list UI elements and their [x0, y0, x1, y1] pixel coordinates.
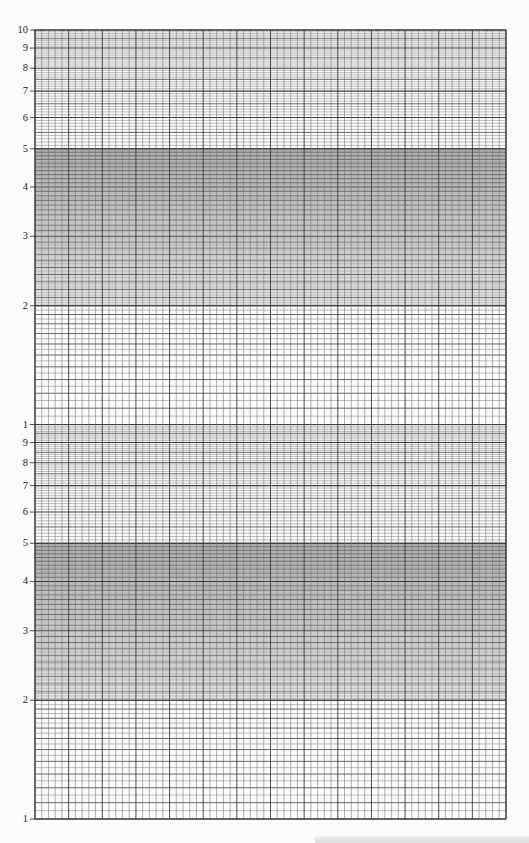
y-tick-label: 2	[0, 695, 28, 706]
y-tick-label: 2	[0, 300, 28, 311]
y-tick-label: 1	[0, 814, 28, 825]
y-tick-label: 4	[0, 576, 28, 587]
y-tick-label: 7	[0, 480, 28, 491]
y-tick-label: 6	[0, 507, 28, 518]
page-edge-shadow	[315, 836, 529, 843]
y-tick-label: 8	[0, 457, 28, 468]
y-tick-label: 5	[0, 144, 28, 155]
semilog-grid	[0, 0, 529, 843]
y-tick-label: 9	[0, 437, 28, 448]
y-tick-label: 4	[0, 182, 28, 193]
y-tick-label: 7	[0, 86, 28, 97]
y-tick-label: 8	[0, 63, 28, 74]
y-tick-label: 9	[0, 43, 28, 54]
y-tick-label: 5	[0, 538, 28, 549]
y-tick-label: 3	[0, 626, 28, 637]
y-tick-label: 10	[0, 25, 28, 36]
y-tick-label: 3	[0, 231, 28, 242]
y-tick-label: 6	[0, 112, 28, 123]
y-tick-label: 1	[0, 419, 28, 430]
